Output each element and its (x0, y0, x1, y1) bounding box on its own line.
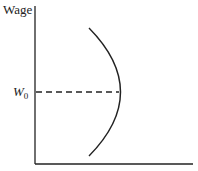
wage-level-label: W0 (13, 84, 29, 101)
labor-supply-curve (89, 28, 121, 156)
diagram-canvas: Wage W0 (0, 0, 198, 171)
y-axis-label: Wage (3, 2, 32, 17)
